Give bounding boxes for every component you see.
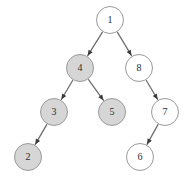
tree-node-label: 8 [137, 63, 142, 73]
tree-node-7[interactable]: 7 [151, 98, 179, 126]
tree-node-4[interactable]: 4 [66, 54, 94, 82]
tree-node-label: 5 [110, 107, 115, 117]
tree-node-3[interactable]: 3 [40, 98, 68, 126]
binary-tree-diagram: 14835726 [0, 0, 192, 183]
tree-node-label: 7 [163, 107, 168, 117]
tree-node-label: 6 [138, 152, 143, 162]
tree-node-label: 4 [78, 63, 83, 73]
tree-node-5[interactable]: 5 [98, 98, 126, 126]
tree-node-2[interactable]: 2 [14, 143, 42, 171]
tree-node-8[interactable]: 8 [125, 54, 153, 82]
tree-node-label: 3 [52, 107, 57, 117]
tree-node-label: 2 [26, 152, 31, 162]
tree-node-6[interactable]: 6 [126, 143, 154, 171]
tree-node-1[interactable]: 1 [96, 6, 124, 34]
tree-node-label: 1 [108, 15, 113, 25]
